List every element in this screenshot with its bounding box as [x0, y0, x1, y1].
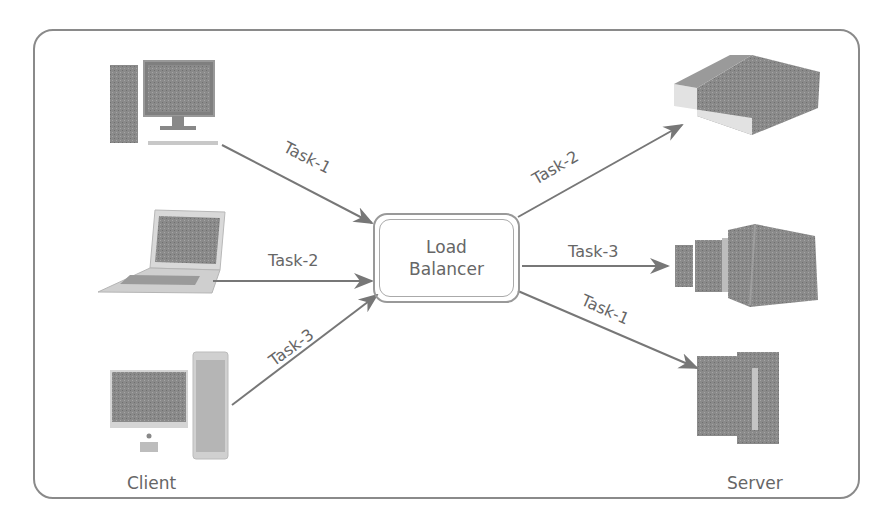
edge-imac-to-lb	[232, 295, 377, 405]
mainframe-server-icon	[697, 352, 779, 444]
load-balancer-label-line1: Load	[426, 236, 467, 258]
all-in-one-computer-icon	[110, 352, 228, 459]
edge-label-task-3-out: Task-3	[568, 242, 618, 261]
load-balancer-node: Load Balancer	[373, 213, 520, 303]
edge-label-task-2-in: Task-2	[268, 251, 318, 270]
desktop-computer-icon	[110, 61, 218, 145]
rack-server-icon	[674, 55, 820, 135]
laptop-icon	[98, 210, 225, 293]
client-caption: Client	[127, 473, 176, 493]
server-cluster-icon	[675, 224, 818, 307]
server-caption: Server	[727, 473, 783, 493]
load-balancer-label-line2: Balancer	[409, 258, 484, 280]
